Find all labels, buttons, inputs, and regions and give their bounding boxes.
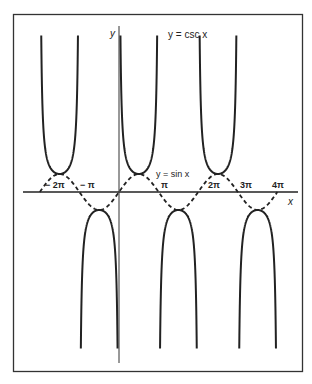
chart-svg: y x − 2π − π π 2π 3π 4π y = csc x y = si… (0, 0, 312, 384)
csc-branch (41, 35, 78, 174)
csc-branch (239, 210, 276, 349)
tick-label-3pi: 3π (240, 180, 252, 190)
tick-label-neg-pi: − π (80, 180, 95, 190)
csc-branch (160, 210, 197, 349)
csc-sin-graph: y x − 2π − π π 2π 3π 4π y = csc x y = si… (0, 0, 312, 384)
csc-branch (120, 35, 157, 174)
tick-label-2pi: 2π (208, 180, 220, 190)
x-axis-label: x (287, 196, 294, 207)
sin-curve-label: y = sin x (156, 169, 190, 179)
csc-curve-label: y = csc x (168, 29, 207, 40)
tick-label-pi: π (161, 180, 168, 190)
tick-label-neg-2pi: − 2π (45, 180, 65, 190)
figure-frame (14, 15, 303, 372)
tick-label-4pi: 4π (272, 180, 284, 190)
csc-branch (200, 35, 237, 174)
y-axis-label: y (109, 28, 116, 39)
csc-branch (81, 210, 118, 349)
